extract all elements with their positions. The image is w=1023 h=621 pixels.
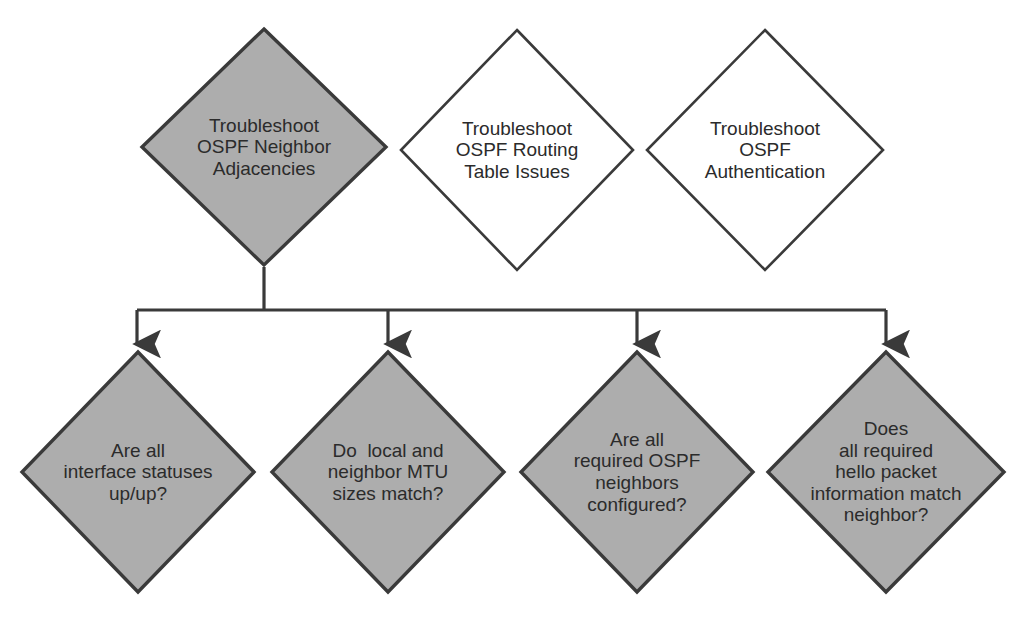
diamond-shape	[768, 352, 1004, 592]
diamond-shape	[22, 352, 254, 592]
diamond-shape	[401, 30, 633, 270]
node-troubleshoot-ospf-routing-table-issues[interactable]: TroubleshootOSPF RoutingTable Issues	[399, 28, 635, 272]
node-are-all-interface-statuses-up-up[interactable]: Are allinterface statusesup/up?	[20, 350, 256, 594]
flowchart-canvas: TroubleshootOSPF NeighborAdjacenciesTrou…	[0, 0, 1023, 621]
node-troubleshoot-ospf-neighbor-adjacencies[interactable]: TroubleshootOSPF NeighborAdjacencies	[140, 27, 388, 267]
diamond-shape	[647, 30, 883, 270]
node-does-all-required-hello-packet-information-match-neighbor[interactable]: Doesall requiredhello packetinformation …	[766, 350, 1006, 594]
diamond-shape	[272, 352, 504, 592]
diamond-shape	[521, 352, 753, 592]
node-troubleshoot-ospf-authentication[interactable]: TroubleshootOSPFAuthentication	[645, 28, 885, 272]
node-do-local-and-neighbor-mtu-sizes-match[interactable]: Do local andneighbor MTUsizes match?	[270, 350, 506, 594]
diamond-shape	[142, 29, 386, 265]
node-are-all-required-ospf-neighbors-configured[interactable]: Are allrequired OSPFneighborsconfigured?	[519, 350, 755, 594]
